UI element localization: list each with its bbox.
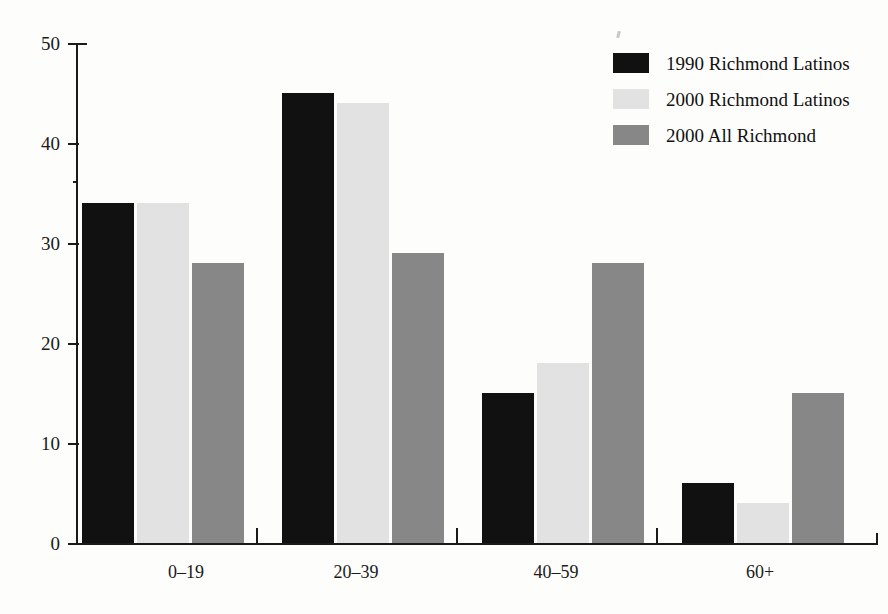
- legend-label-0: 1990 Richmond Latinos: [666, 54, 850, 73]
- bar-2039-series0: [282, 93, 334, 543]
- legend-item-1: 2000 Richmond Latinos: [613, 81, 883, 117]
- bar-4059-series0: [482, 393, 534, 543]
- y-tick-label-50: 50: [14, 34, 60, 53]
- bar-019-series2: [192, 263, 244, 543]
- light-gray-swatch: [613, 89, 649, 109]
- bar-2039-series2: [392, 253, 444, 543]
- legend-item-2: 2000 All Richmond: [613, 117, 883, 153]
- bar-019-series1: [137, 203, 189, 543]
- bar-60+-series1: [737, 503, 789, 543]
- x-axis-label-40-59: 40–59: [496, 562, 616, 582]
- y-tick-label-30: 30: [14, 234, 60, 253]
- legend-item-0: 1990 Richmond Latinos: [613, 45, 883, 81]
- x-axis-label-60plus: 60+: [700, 562, 820, 582]
- y-tick-label-10: 10: [14, 434, 60, 453]
- bar-019-series0: [82, 203, 134, 543]
- bar-chart: 50 40 30 20 10 0 0–19 20–39 40–59 60+ 19…: [0, 0, 888, 614]
- bar-60+-series2: [792, 393, 844, 543]
- y-tick-0: [68, 543, 79, 545]
- scan-artifact: [616, 31, 621, 39]
- y-tick-label-40: 40: [14, 134, 60, 153]
- bar-60+-series0: [682, 483, 734, 543]
- bar-4059-series2: [592, 263, 644, 543]
- dark-gray-swatch: [613, 125, 649, 145]
- chart-legend: 1990 Richmond Latinos2000 Richmond Latin…: [613, 45, 883, 153]
- black-swatch: [613, 53, 649, 73]
- x-axis-label-0-19: 0–19: [126, 562, 246, 582]
- bar-4059-series1: [537, 363, 589, 543]
- legend-label-1: 2000 Richmond Latinos: [666, 90, 850, 109]
- y-tick-label-20: 20: [14, 334, 60, 353]
- y-tick-label-0: 0: [14, 534, 60, 553]
- legend-label-2: 2000 All Richmond: [666, 126, 816, 145]
- x-axis-line: [76, 543, 878, 545]
- bar-2039-series1: [337, 103, 389, 543]
- x-axis-label-20-39: 20–39: [296, 562, 416, 582]
